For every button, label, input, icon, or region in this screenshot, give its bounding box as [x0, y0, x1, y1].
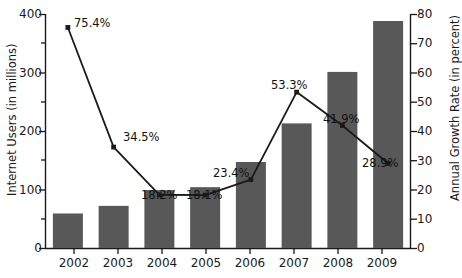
bar-2009: [373, 21, 403, 248]
data-label-2005: 18.1%: [186, 188, 223, 202]
data-label-2002: 75.4%: [74, 16, 111, 30]
marker-2002: [65, 25, 70, 30]
data-label-2006: 23.4%: [213, 166, 250, 180]
data-label-2008: 41.9%: [323, 112, 360, 126]
bar-series: [53, 21, 403, 248]
data-label-2004: 18.2%: [141, 188, 178, 202]
bar-2002: [53, 213, 83, 248]
y-axis-right-ticks: [411, 15, 417, 249]
y-axis-left-ticks: [39, 15, 45, 249]
data-label-2003: 34.5%: [123, 130, 160, 144]
bar-2003: [99, 206, 129, 248]
marker-2003: [111, 145, 116, 150]
data-label-2007: 53.3%: [271, 78, 308, 92]
bar-2007: [282, 123, 312, 248]
bar-2008: [327, 72, 357, 248]
data-label-2009: 28.9%: [362, 156, 399, 170]
